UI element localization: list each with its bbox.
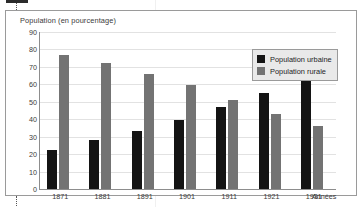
x-tick-label: 1871	[52, 192, 68, 201]
y-tick-label: 10	[29, 167, 37, 176]
scan-artifact-tick-bottom	[16, 196, 18, 206]
bar-urbaine	[174, 120, 184, 189]
y-tick-label: 50	[29, 97, 37, 106]
x-tick-label: 1881	[94, 192, 110, 201]
bar-rurale	[228, 100, 238, 189]
bar-rurale	[186, 85, 196, 189]
bar-rurale	[313, 126, 323, 189]
bar-rurale	[101, 63, 111, 189]
bar-rurale	[144, 74, 154, 189]
chart-container: Population (en pourcentage) 010203040506…	[5, 10, 357, 196]
bar-urbaine	[89, 140, 99, 189]
x-tick-label: 1891	[137, 192, 153, 201]
x-axis-title: Années	[312, 192, 336, 201]
x-tick-label: 1921	[264, 192, 280, 201]
legend-swatch-rural	[257, 67, 265, 75]
legend-label-rural: Population rurale	[270, 67, 326, 76]
legend-item: Population urbaine	[257, 53, 332, 65]
bar-group	[209, 32, 251, 189]
y-tick-label: 30	[29, 132, 37, 141]
bar-group	[125, 32, 167, 189]
bar-group	[40, 32, 82, 189]
x-tick-label: 1901	[179, 192, 195, 201]
bar-urbaine	[132, 131, 142, 189]
y-tick-label: 40	[29, 115, 37, 124]
bar-urbaine	[216, 107, 226, 189]
y-tick-label: 20	[29, 150, 37, 159]
y-tick-label: 60	[29, 80, 37, 89]
y-tick-label: 90	[29, 28, 37, 37]
bar-rurale	[59, 55, 69, 189]
y-tick-label: 0	[33, 185, 37, 194]
chart-title: Population (en pourcentage)	[20, 16, 116, 25]
chart-legend: Population urbaine Population rurale	[252, 49, 338, 81]
bar-group	[82, 32, 124, 189]
bar-urbaine	[259, 93, 269, 189]
bar-urbaine	[301, 81, 311, 189]
bar-group	[167, 32, 209, 189]
y-tick-label: 80	[29, 45, 37, 54]
bar-rurale	[271, 114, 281, 189]
bar-urbaine	[47, 150, 57, 189]
y-tick-label: 70	[29, 62, 37, 71]
x-tick-label: 1911	[222, 192, 237, 201]
legend-item: Population rurale	[257, 65, 332, 77]
legend-swatch-urban	[257, 55, 265, 63]
legend-label-urban: Population urbaine	[270, 55, 332, 64]
